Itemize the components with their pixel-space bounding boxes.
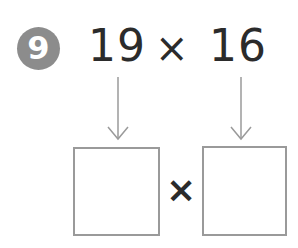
- multiply-sign-answer: ×: [166, 170, 196, 210]
- answer-box-left[interactable]: [73, 147, 160, 236]
- answer-box-right[interactable]: [202, 146, 287, 236]
- arrow-down-icon-right: [229, 75, 253, 143]
- arrow-down-icon-left: [106, 75, 130, 143]
- left-operand: 19: [88, 18, 146, 74]
- right-operand: 16: [209, 18, 267, 74]
- problem-number-badge: 9: [17, 27, 60, 70]
- multiply-sign-top: ×: [155, 20, 189, 76]
